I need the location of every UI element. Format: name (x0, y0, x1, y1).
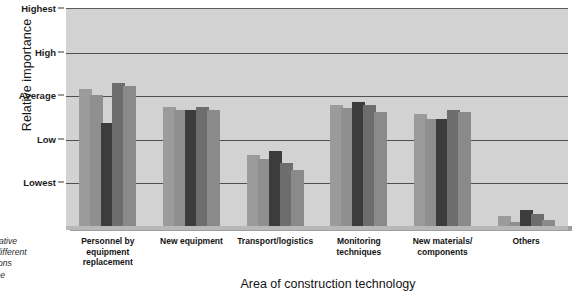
bar-group (163, 9, 220, 226)
bar (207, 110, 220, 226)
caption-line: of different (0, 247, 64, 258)
caption-line: rations (0, 258, 64, 269)
bar-group (330, 9, 387, 226)
bar (291, 170, 304, 226)
y-tick-mark-average (58, 95, 64, 96)
y-tick-label-average: Average (19, 90, 56, 101)
plot-area (66, 8, 568, 226)
x-axis-tick-labels: Personnel by equipment replacementNew eq… (66, 236, 568, 278)
bar (458, 112, 471, 226)
bars-layer (66, 9, 568, 226)
x-tick-label: New materials/ components (401, 236, 485, 257)
bar-group (79, 9, 136, 226)
caption-line: n the (0, 270, 64, 281)
x-axis-title: Area of construction technology (0, 277, 586, 291)
x-tick-label: Monitoring techniques (317, 236, 401, 257)
caption-line: Relative (0, 236, 64, 247)
y-tick-mark-highest (58, 8, 64, 9)
bar (123, 86, 136, 226)
bar-group (247, 9, 304, 226)
bar-group (414, 9, 471, 226)
x-tick-label: New equipment (150, 236, 234, 247)
y-tick-mark-high (58, 51, 64, 52)
x-tick-label: Transport/logistics (233, 236, 317, 247)
x-tick-label: Others (484, 236, 568, 247)
y-tick-mark-low (58, 138, 64, 139)
bar (542, 220, 555, 226)
y-tick-label-high: High (35, 46, 56, 57)
figure-caption: Relativeof differentrationsn the (0, 236, 64, 281)
bar-group (498, 9, 555, 226)
y-tick-mark-lowest (58, 182, 64, 183)
axis-baseline (66, 226, 568, 230)
x-tick-label: Personnel by equipment replacement (66, 236, 150, 268)
y-tick-label-highest: Highest (21, 3, 56, 14)
bar (374, 112, 387, 226)
y-tick-label-low: Low (37, 133, 56, 144)
y-axis-ticks: Highest High Average Low Lowest (0, 0, 66, 240)
y-tick-label-lowest: Lowest (23, 177, 56, 188)
